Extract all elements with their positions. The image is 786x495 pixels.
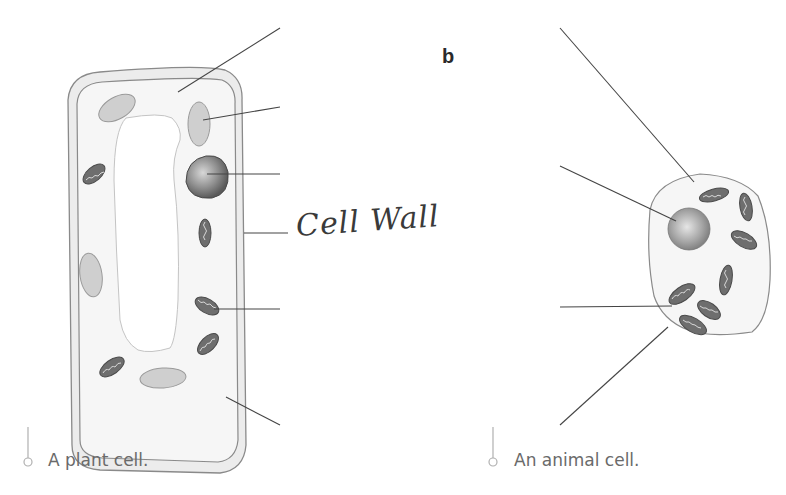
cell-diagram bbox=[0, 0, 786, 495]
caption-animal-cell: An animal cell. bbox=[514, 450, 639, 470]
panel-label-b: b bbox=[442, 45, 454, 68]
caption-marker-animal bbox=[489, 427, 497, 466]
caption-marker-plant bbox=[24, 427, 32, 466]
plant-vacuole bbox=[114, 115, 180, 352]
caption-plant-cell: A plant cell. bbox=[48, 450, 148, 470]
animal-nucleus bbox=[668, 208, 710, 250]
plant-cell bbox=[68, 67, 246, 473]
chloroplast bbox=[188, 102, 210, 146]
animal-cell bbox=[649, 174, 771, 339]
